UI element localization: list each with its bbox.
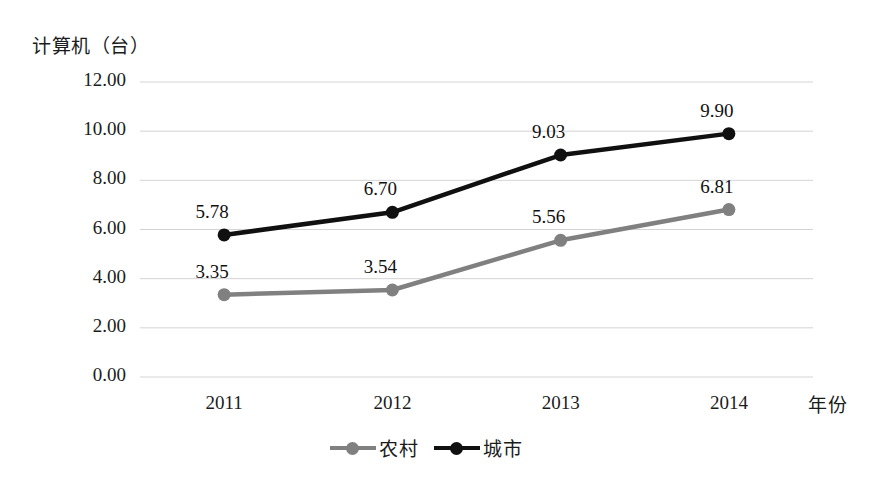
data-point-label: 3.35	[177, 261, 247, 283]
plot-area	[0, 0, 888, 483]
data-point	[722, 127, 735, 140]
series-line	[224, 210, 729, 295]
legend-dot-icon	[346, 442, 359, 455]
data-point-label: 6.70	[345, 178, 415, 200]
data-point-label: 5.56	[514, 206, 584, 228]
data-point	[386, 206, 399, 219]
data-point	[722, 203, 735, 216]
legend-marker-icon	[330, 441, 376, 455]
legend-item-urban[interactable]: 城市	[434, 434, 522, 461]
legend-item-rural[interactable]: 农村	[330, 434, 418, 461]
data-point-label: 9.90	[682, 100, 752, 122]
line-chart: 计算机（台） 年份 12.0010.008.006.004.002.000.00…	[0, 0, 888, 483]
data-point	[554, 234, 567, 247]
legend-dot-icon	[450, 442, 463, 455]
legend-label: 城市	[483, 434, 522, 461]
data-point	[554, 149, 567, 162]
legend-label: 农村	[379, 434, 418, 461]
data-point-label: 9.03	[514, 121, 584, 143]
legend-marker-icon	[434, 441, 480, 455]
data-point-label: 5.78	[177, 201, 247, 223]
data-point-label: 3.54	[345, 256, 415, 278]
series-line	[224, 134, 729, 235]
data-point	[386, 283, 399, 296]
series-rural	[218, 203, 736, 301]
data-point-label: 6.81	[682, 176, 752, 198]
data-point	[218, 228, 231, 241]
chart-legend: 农村城市	[330, 434, 522, 461]
data-point	[218, 288, 231, 301]
